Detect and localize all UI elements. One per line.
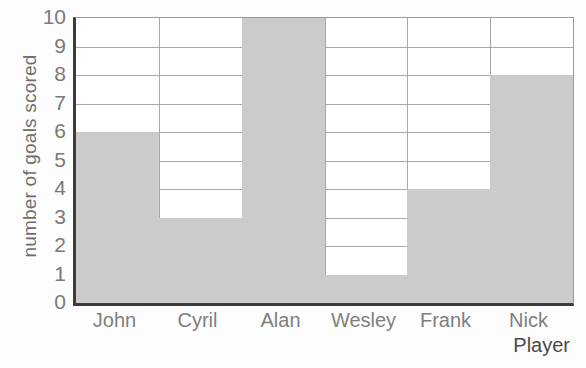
x-axis-tick-label: Alan [239, 308, 322, 332]
x-axis-tick-label: Nick [487, 308, 570, 332]
y-axis-tick-label: 6 [26, 120, 66, 141]
y-axis-tick-label-group: 012345678910 [26, 0, 66, 368]
bar-frank [407, 189, 490, 303]
bar-wesley [325, 275, 408, 304]
x-axis-tick-label: John [73, 308, 156, 332]
y-axis-tick-label: 10 [26, 6, 66, 27]
y-axis-tick-label: 7 [26, 92, 66, 113]
y-axis-tick-label: 3 [26, 206, 66, 227]
bar-chart-figure: number of goals scored 012345678910 John… [0, 0, 586, 368]
x-axis-tick-label: Cyril [156, 308, 239, 332]
y-axis-tick-label: 9 [26, 35, 66, 56]
x-axis-tick-label: Frank [404, 308, 487, 332]
plot-area [73, 17, 574, 306]
y-axis-tick-label: 0 [26, 291, 66, 312]
bar-cyril [159, 218, 242, 304]
bar-nick [490, 75, 573, 303]
y-axis-tick-label: 8 [26, 63, 66, 84]
y-axis-tick-label: 1 [26, 263, 66, 284]
y-axis-tick-label: 2 [26, 234, 66, 255]
bar-alan [242, 18, 325, 303]
y-axis-tick-label: 5 [26, 149, 66, 170]
gridline-vertical [325, 18, 326, 303]
bar-john [76, 132, 159, 303]
y-axis-tick-label: 4 [26, 177, 66, 198]
x-axis-title: Player [420, 334, 570, 357]
x-axis-tick-label: Wesley [322, 308, 405, 332]
